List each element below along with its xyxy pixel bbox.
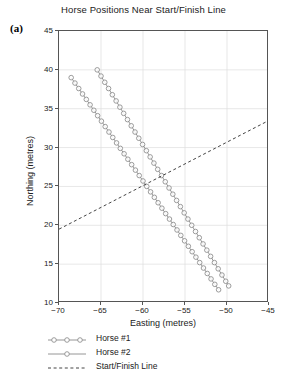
legend-key-icon (46, 360, 88, 372)
data-point-marker (107, 130, 112, 135)
legend-key-icon (46, 332, 88, 344)
x-tick-mark (268, 302, 269, 305)
data-point-marker (194, 255, 199, 260)
plot-svg (59, 31, 268, 302)
data-point-marker (95, 113, 100, 118)
legend-item-2[interactable]: Horse #2 (46, 345, 246, 359)
figure-panel: (a) Horse Positions Near Start/Finish Li… (0, 0, 287, 377)
data-point-marker (99, 119, 104, 124)
x-axis-title: Easting (metres) (58, 318, 268, 328)
data-point-marker (182, 211, 187, 216)
data-point-marker (126, 157, 131, 162)
legend-key-icon (46, 346, 88, 358)
data-point-marker (69, 75, 74, 80)
data-point-marker (179, 233, 184, 238)
data-point-marker (208, 254, 213, 259)
x-tick-label: −55 (169, 306, 199, 315)
y-tick-label: 40 (27, 64, 53, 73)
data-point-marker (174, 198, 179, 203)
data-point-marker (205, 271, 210, 276)
data-point-marker (152, 161, 157, 166)
data-point-marker (125, 117, 130, 122)
data-point-marker (84, 97, 89, 102)
data-point-marker (95, 68, 100, 73)
data-point-marker (197, 260, 202, 265)
x-tick-mark (184, 302, 185, 305)
data-point-marker (201, 242, 206, 247)
y-tick-label: 45 (27, 26, 53, 35)
y-tick-label: 15 (27, 259, 53, 268)
data-point-marker (80, 92, 85, 97)
data-point-marker (223, 279, 228, 284)
data-point-marker (156, 200, 161, 205)
legend-label: Horse #1 (88, 333, 131, 343)
data-point-marker (148, 155, 153, 160)
x-tick-mark (58, 302, 59, 305)
chart-title: Horse Positions Near Start/Finish Line (0, 4, 287, 15)
data-point-marker (73, 81, 78, 86)
data-point-marker (133, 130, 138, 135)
data-point-marker (110, 135, 115, 140)
data-point-marker (144, 148, 149, 153)
data-point-marker (76, 86, 81, 91)
data-point-marker (171, 192, 176, 197)
data-point-marker (137, 136, 142, 141)
x-tick-label: −65 (85, 306, 115, 315)
data-point-marker (103, 124, 108, 129)
data-point-marker (220, 273, 225, 278)
legend-item-1[interactable]: Horse #1 (46, 331, 246, 345)
x-tick-mark (142, 302, 143, 305)
data-point-marker (216, 267, 221, 272)
data-point-marker (213, 282, 218, 287)
data-point-marker (163, 211, 168, 216)
data-point-marker (137, 173, 142, 178)
data-point-marker (226, 284, 231, 289)
data-point-marker (160, 206, 165, 211)
data-point-marker (102, 80, 107, 85)
legend-label: Start/Finish Line (88, 361, 157, 371)
y-tick-label: 10 (27, 298, 53, 307)
series-layer (59, 68, 268, 293)
data-point-marker (197, 235, 202, 240)
data-point-marker (201, 266, 206, 271)
y-axis-title: Northing (metres) (25, 111, 35, 231)
data-point-marker (171, 222, 176, 227)
data-point-marker (175, 228, 180, 233)
data-point-marker (118, 105, 123, 110)
plot-area (58, 30, 268, 302)
data-point-marker (140, 142, 145, 147)
x-tick-label: −60 (127, 306, 157, 315)
data-point-marker (216, 287, 221, 292)
gridlines (59, 31, 268, 302)
data-point-marker (155, 167, 160, 172)
data-point-marker (99, 74, 104, 79)
data-point-marker (118, 146, 123, 151)
data-point-marker (186, 217, 191, 222)
legend-item-3[interactable]: Start/Finish Line (46, 359, 246, 373)
data-point-marker (141, 179, 146, 184)
data-point-marker (190, 249, 195, 254)
x-tick-label: −50 (211, 306, 241, 315)
data-point-marker (167, 217, 172, 222)
data-point-marker (163, 179, 168, 184)
data-point-marker (106, 86, 111, 91)
data-point-marker (148, 190, 153, 195)
data-point-marker (189, 223, 194, 228)
data-point-marker (88, 103, 93, 108)
y-tick-mark (55, 302, 58, 303)
panel-label: (a) (10, 22, 23, 34)
data-point-marker (212, 260, 217, 265)
data-point-marker (122, 151, 127, 156)
chart-legend: Horse #1Horse #2Start/Finish Line (46, 331, 246, 373)
data-point-marker (133, 168, 138, 173)
data-point-marker (178, 204, 183, 209)
x-tick-label: −70 (43, 306, 73, 315)
data-point-marker (129, 162, 134, 167)
data-point-marker (186, 244, 191, 249)
data-point-marker (114, 141, 119, 146)
data-point-marker (182, 239, 187, 244)
data-point-marker (110, 92, 115, 97)
data-point-marker (92, 108, 97, 113)
data-point-marker (152, 195, 157, 200)
x-tick-mark (226, 302, 227, 305)
